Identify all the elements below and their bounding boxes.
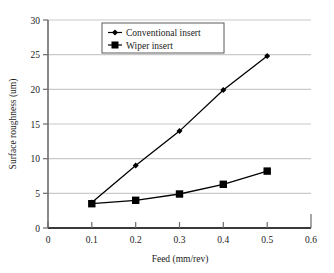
- y-tick-label-15: 15: [31, 120, 41, 130]
- data-point-wiper-2: [176, 190, 183, 197]
- x-tick-label-0.6: 0.6: [305, 235, 317, 245]
- y-tick-label-0: 0: [35, 224, 40, 234]
- y-tick-label-20: 20: [31, 85, 41, 95]
- x-tick-label-0.1: 0.1: [86, 235, 98, 245]
- legend-label-conventional: Conventional insert: [126, 28, 201, 38]
- x-tick-label-0.4: 0.4: [217, 235, 229, 245]
- chart-container: 30 25 20 15 10 5 0 0 0.1 0.2 0.3 0.4 0.5…: [0, 0, 334, 273]
- square-marker-icon: [112, 42, 119, 49]
- data-point-wiper-1: [132, 197, 139, 204]
- x-tick-label-0.3: 0.3: [174, 235, 186, 245]
- x-tick-label-0.5: 0.5: [261, 235, 273, 245]
- x-tick-label-0: 0: [46, 235, 51, 245]
- data-point-wiper-0: [88, 200, 95, 207]
- y-tick-label-30: 30: [31, 16, 41, 26]
- x-axis-title: Feed (mm/rev): [152, 254, 209, 265]
- y-tick-label-5: 5: [35, 189, 40, 199]
- y-tick-label-10: 10: [31, 154, 41, 164]
- legend: Conventional insert Wiper insert: [102, 23, 224, 53]
- data-point-wiper-4: [264, 167, 271, 174]
- y-axis-title: Surface roughness (um): [8, 79, 19, 170]
- y-tick-label-25: 25: [31, 50, 41, 60]
- x-tick-label-0.2: 0.2: [130, 235, 142, 245]
- legend-label-wiper: Wiper insert: [126, 41, 173, 51]
- data-point-wiper-3: [220, 181, 227, 188]
- line-chart: 30 25 20 15 10 5 0 0 0.1 0.2 0.3 0.4 0.5…: [0, 0, 334, 273]
